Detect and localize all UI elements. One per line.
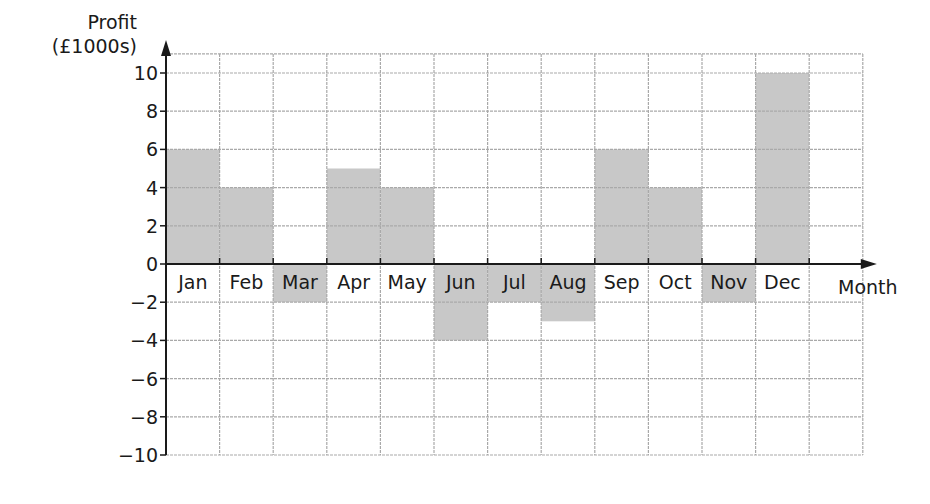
y-tick-label: 0 [146,253,158,275]
y-tick-label: −4 [130,329,158,351]
month-label-aug: Aug [549,271,586,293]
month-label-oct: Oct [659,271,692,293]
month-label-mar: Mar [282,271,318,293]
y-axis-title: Profit (£1000s) [30,10,137,58]
month-label-jun: Jun [445,271,476,293]
month-label-sep: Sep [604,271,640,293]
y-tick-label: 4 [146,177,158,199]
y-tick-label: 2 [146,215,158,237]
y-tick-label: −6 [130,368,158,390]
x-axis-title: Month [838,276,898,298]
month-label-jul: Jul [502,271,526,293]
profit-bar-chart: JanFebMarAprMayJunJulAugSepOctNovDec −10… [0,0,930,504]
month-label-nov: Nov [710,271,747,293]
month-label-dec: Dec [764,271,801,293]
y-tick-label: −2 [130,291,158,313]
bar-sep [595,149,649,264]
y-tick-label: 8 [146,100,158,122]
month-label-may: May [388,271,427,293]
month-label-jan: Jan [177,271,207,293]
y-tick-label: −8 [130,406,158,428]
bar-jan [166,149,220,264]
y-tick-label: 6 [146,138,158,160]
y-axis-title-line1: Profit [30,10,137,34]
y-tick-label: −10 [118,444,158,466]
bar-apr [327,169,381,265]
month-label-apr: Apr [337,271,370,293]
bar-dec [756,73,810,264]
y-axis-title-line2: (£1000s) [30,34,137,58]
y-tick-label: 10 [134,62,158,84]
y-tick-labels: −10−8−6−4−20246810 [118,62,158,466]
month-label-feb: Feb [230,271,264,293]
